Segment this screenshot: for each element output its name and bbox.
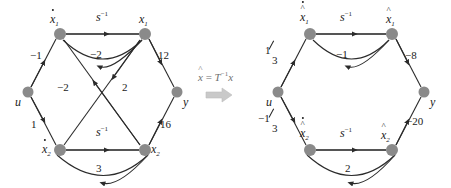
node-label-xhatdot2: ^x2 [300, 127, 309, 142]
edge-label-output-upper-left: 12 [158, 50, 169, 61]
node-label-y-right: y [430, 96, 435, 108]
node-label-xdot2: x2 [42, 143, 51, 158]
right-arrow-icon [206, 88, 232, 102]
figure-canvas: x1 x1 u y x2 x2 s−1 −2 −1 1 12 16 −2 2 s… [0, 0, 451, 188]
edge-label-feedback-top-right: −1 [336, 49, 348, 60]
node-label-x2: x2 [151, 143, 160, 158]
edge-label-input-lower-left: 1 [31, 119, 37, 130]
node-label-xhatdot1: ^x1 [300, 11, 309, 26]
edge-label-input-lower-right: −1 3 [258, 118, 284, 136]
node-xdot1[interactable] [54, 28, 66, 40]
transform-equation: ^x = T−1x [198, 71, 233, 83]
edge-label-output-lower-right: −20 [406, 116, 423, 127]
node-label-xdot1: x1 [50, 13, 59, 28]
node-y-right[interactable] [419, 87, 430, 98]
edge-label-feedback-top-left: −2 [90, 49, 102, 60]
edge-arrow-input-upper-left [31, 62, 44, 87]
transform-arrow-group [206, 88, 232, 102]
node-x2[interactable] [139, 144, 151, 156]
edge-arrow-feedback-bottom-right [350, 155, 395, 184]
node-label-xhat1: ^x1 [386, 13, 395, 28]
edge-feedback-top-left [63, 40, 142, 59]
node-label-xhat2: ^x2 [381, 129, 390, 144]
node-xhatdot1[interactable] [304, 28, 316, 40]
edge-label-input-upper-right: 1 3 [265, 50, 283, 68]
edge-feedback-top-right [313, 40, 389, 59]
node-label-u-left: u [15, 96, 21, 108]
edge-label-integrator-bottom-right: s−1 [340, 127, 352, 139]
edge-arrow-feedback-bottom-left [102, 155, 148, 184]
edge-label-integrator-top-right: s−1 [340, 11, 352, 23]
node-x1[interactable] [139, 28, 151, 40]
edge-label-output-upper-right: −8 [405, 50, 417, 61]
node-y-left[interactable] [172, 87, 183, 98]
node-xhat1[interactable] [386, 28, 398, 40]
node-label-y-left: y [183, 96, 188, 108]
edge-label-feedback-bottom-right: 2 [345, 163, 351, 174]
right-graph-edges [281, 34, 421, 184]
node-xdot2[interactable] [54, 144, 66, 156]
edge-label-cross-up-left: −2 [57, 82, 69, 93]
edge-arrow-feedback-top-right [347, 40, 389, 67]
edge-label-input-upper-left: −1 [30, 50, 42, 61]
node-u-left[interactable] [23, 87, 34, 98]
node-u-right[interactable] [273, 87, 284, 98]
edge-label-integrator-bottom-left: s−1 [96, 126, 108, 138]
node-label-x1: x1 [139, 13, 148, 28]
node-xhatdot2[interactable] [304, 144, 316, 156]
edge-label-output-lower-left: 16 [160, 119, 171, 130]
node-xhat2[interactable] [386, 144, 398, 156]
edge-label-cross-down-left: 2 [122, 82, 128, 93]
edge-arrow-feedback-top-left [99, 40, 142, 67]
edge-label-feedback-bottom-left: 3 [96, 163, 102, 174]
edge-arrow-cross-down-left [113, 40, 140, 78]
edge-feedback-bottom-right [307, 155, 395, 176]
edge-feedback-bottom-left [57, 155, 148, 176]
left-graph-edges [31, 34, 174, 184]
node-label-u-right: u [266, 96, 272, 108]
flow-graph-svg [0, 0, 451, 188]
edge-label-integrator-top-left: s−1 [96, 11, 108, 23]
